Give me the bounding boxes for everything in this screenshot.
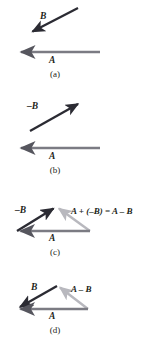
panel-d-vector-b: [20, 286, 57, 307]
vector-subtraction-figure: B A (a) –B A (b) –B A A + (–B) = A – B (…: [0, 0, 153, 355]
panel-c-label-neg-b: –B: [15, 206, 26, 216]
panel-a-vectors: [21, 8, 100, 52]
panel-c-caption: (c): [43, 248, 67, 257]
panel-d-label-a: A: [49, 312, 55, 322]
panel-b-caption: (b): [43, 166, 67, 175]
vector-diagram-canvas: [0, 0, 153, 355]
panel-a-label-a: A: [49, 56, 55, 66]
panel-d-label-resultant: A – B: [71, 285, 92, 294]
panel-b-label-neg-b: –B: [27, 102, 38, 112]
panel-b-label-a: A: [49, 152, 55, 162]
panel-c-label-a: A: [49, 234, 55, 244]
panel-a-label-b: B: [40, 12, 46, 22]
panel-a-caption: (a): [43, 70, 67, 79]
panel-c-label-resultant: A + (–B) = A – B: [71, 207, 132, 216]
panel-d-label-b: B: [31, 283, 37, 293]
panel-d-caption: (d): [43, 326, 67, 335]
